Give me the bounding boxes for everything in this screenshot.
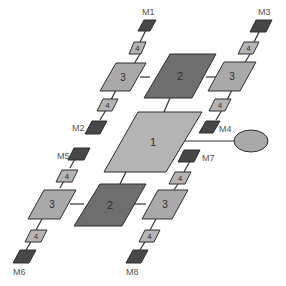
node-tr-4a-label: 4 [246, 44, 251, 53]
module-m1-label: M1 [142, 7, 155, 17]
external-node-ellipse[interactable] [234, 130, 268, 152]
module-m3[interactable]: M3 [250, 7, 272, 32]
node-tl-4a-label: 4 [135, 44, 140, 53]
node-tr-3-label: 3 [229, 71, 235, 82]
module-m6-label: M6 [13, 267, 26, 277]
module-m3-label: M3 [258, 7, 271, 17]
node-tl-4b[interactable]: 4 [97, 99, 118, 111]
node-br-4a[interactable]: 4 [169, 172, 191, 184]
module-m6[interactable]: M6 [13, 250, 36, 277]
node-bl-3-label: 3 [49, 199, 55, 210]
node-tl-3-label: 3 [120, 72, 126, 83]
node-tr-4a[interactable]: 4 [238, 42, 259, 54]
node-tl-3[interactable]: 3 [100, 63, 146, 91]
module-m5[interactable]: M5 [57, 148, 90, 161]
node-tl-4b-label: 4 [105, 101, 110, 110]
node-bl-4a-label: 4 [65, 172, 70, 181]
node-tr-4b[interactable]: 4 [209, 99, 231, 111]
module-m2-label: M2 [72, 123, 85, 133]
node-center-label: 1 [150, 136, 156, 148]
node-br-4b-label: 4 [147, 232, 152, 241]
module-m4[interactable]: M4 [199, 121, 232, 134]
node-bl-3[interactable]: 3 [28, 190, 76, 219]
node-br-3-label: 3 [162, 199, 168, 210]
node-bottom-hub[interactable]: 2 [74, 184, 146, 226]
module-m8[interactable]: M8 [126, 250, 148, 277]
node-br-3[interactable]: 3 [142, 190, 188, 219]
module-m7-label: M7 [202, 153, 215, 163]
node-bl-4b-label: 4 [34, 232, 39, 241]
node-tr-4b-label: 4 [218, 101, 223, 110]
node-bl-4b[interactable]: 4 [25, 230, 47, 242]
node-bl-4a[interactable]: 4 [56, 170, 78, 182]
node-center[interactable]: 1 [104, 112, 202, 172]
node-tl-4a[interactable]: 4 [129, 42, 146, 54]
module-m7[interactable]: M7 [178, 150, 215, 163]
network-diagram: 1 2 2 3 4 4 M1 M2 3 4 4 [0, 0, 286, 286]
node-br-4a-label: 4 [178, 174, 183, 183]
module-m1[interactable]: M1 [138, 7, 156, 31]
node-bottom-hub-label: 2 [107, 199, 113, 211]
module-m4-label: M4 [219, 124, 232, 134]
node-top-hub[interactable]: 2 [144, 54, 216, 98]
module-m2[interactable]: M2 [72, 121, 107, 134]
module-m5-label: M5 [57, 151, 70, 161]
module-m8-label: M8 [126, 267, 139, 277]
node-top-hub-label: 2 [177, 70, 183, 82]
node-br-4b[interactable]: 4 [139, 230, 160, 242]
